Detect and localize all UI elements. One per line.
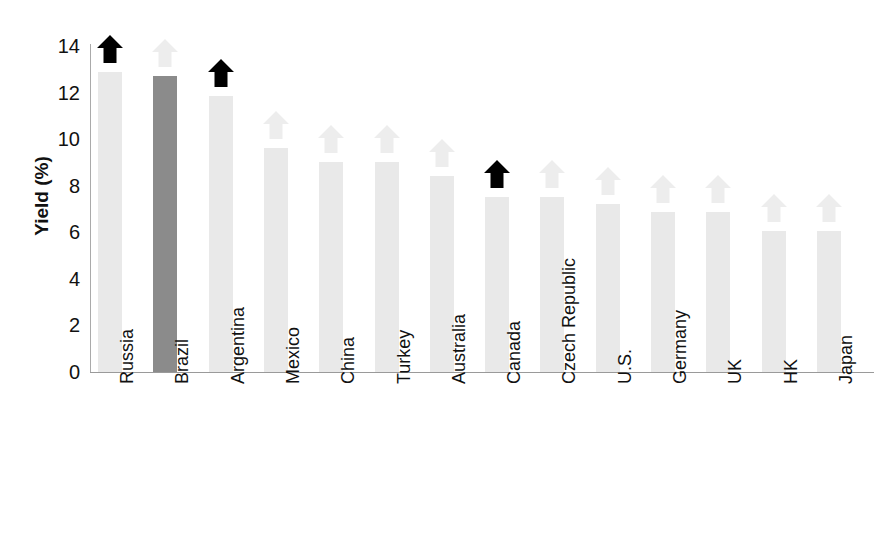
up-arrow-icon-turkey <box>373 124 401 154</box>
x-axis-label-czech-republic: Czech Republic <box>559 258 580 384</box>
up-arrow-icon-hk <box>760 193 788 223</box>
up-arrow-icon-germany <box>649 174 677 204</box>
up-arrow-icon-u-s <box>594 166 622 196</box>
x-axis-label-mexico: Mexico <box>283 327 304 384</box>
x-axis-label-argentina: Argentina <box>228 307 249 384</box>
bar-chart: Yield (%) 14121086420 RussiaBrazilArgent… <box>0 0 876 551</box>
bar-russia <box>98 72 122 372</box>
bar-u-s <box>596 204 620 372</box>
up-arrow-icon-russia <box>96 34 124 64</box>
x-axis-label-russia: Russia <box>117 329 138 384</box>
x-axis-label-japan: Japan <box>836 335 857 384</box>
up-arrow-icon-australia <box>428 138 456 168</box>
bar-hk <box>762 231 786 372</box>
x-axis-label-canada: Canada <box>504 321 525 384</box>
bar-uk <box>706 212 730 372</box>
up-arrow-icon-uk <box>704 174 732 204</box>
up-arrow-icon-czech-republic <box>538 159 566 189</box>
up-arrow-icon-brazil <box>151 38 179 68</box>
up-arrow-icon-china <box>317 124 345 154</box>
x-axis-label-germany: Germany <box>670 310 691 384</box>
x-axis-label-uk: UK <box>725 359 746 384</box>
x-axis-label-u-s: U.S. <box>615 349 636 384</box>
x-axis-label-china: China <box>338 337 359 384</box>
x-axis-label-australia: Australia <box>449 314 470 384</box>
up-arrow-icon-mexico <box>262 110 290 140</box>
x-axis-label-hk: HK <box>781 359 802 384</box>
x-axis-label-turkey: Turkey <box>394 330 415 384</box>
plot-area: RussiaBrazilArgentinaMexicoChinaTurkeyAu… <box>0 0 876 551</box>
x-axis-label-brazil: Brazil <box>172 339 193 384</box>
bar-brazil <box>153 76 177 372</box>
up-arrow-icon-argentina <box>207 58 235 88</box>
up-arrow-icon-japan <box>815 193 843 223</box>
up-arrow-icon-canada <box>483 159 511 189</box>
